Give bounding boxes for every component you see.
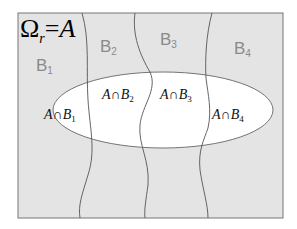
partition-label-b3: B3 <box>160 30 177 50</box>
diagram-title: Ωr=A <box>20 14 75 47</box>
partition-label-b1: B1 <box>36 56 53 76</box>
set-a: A <box>59 14 75 43</box>
intersection-label-a-b1: A∩B1 <box>44 107 76 124</box>
intersection-label-a-b4: A∩B4 <box>212 107 244 124</box>
intersection-label-a-b2: A∩B2 <box>102 87 134 104</box>
equals-sign: = <box>45 14 60 43</box>
partition-label-b2: B2 <box>100 37 117 57</box>
omega-symbol: Ω <box>20 14 39 43</box>
partition-label-b4: B4 <box>234 39 251 59</box>
intersection-label-a-b3: A∩B3 <box>160 87 192 104</box>
